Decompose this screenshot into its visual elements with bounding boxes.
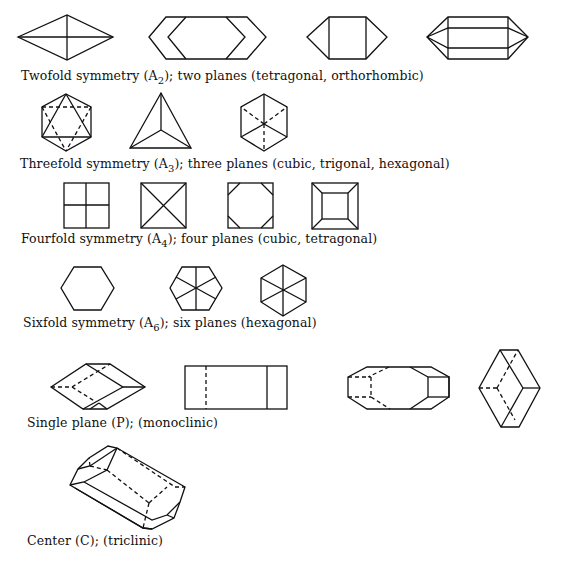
- square-diagonals-icon: [141, 183, 186, 228]
- monoclinic-rectangle-icon: [185, 366, 287, 409]
- symmetry-elements-figure: Twofold symmetry (A2); two planes (tetra…: [0, 0, 565, 562]
- caption-text: ); four planes (cubic, tetragonal): [168, 231, 378, 246]
- caption-center: Center (C); (triclinic): [27, 533, 163, 548]
- hexagon-diagonals-icon: [261, 265, 306, 316]
- caption-text: ); three planes (cubic, trigonal, hexago…: [174, 156, 449, 171]
- cube-corner-view-icon: [241, 94, 287, 151]
- caption-text: Threefold symmetry (A: [20, 156, 168, 171]
- monoclinic-rhomb-vertical-icon: [479, 350, 540, 427]
- caption-fourfold: Fourfold symmetry (A4); four planes (cub…: [21, 231, 377, 249]
- doubly-terminated-prism-icon: [427, 17, 528, 59]
- triclinic-prism-icon: [70, 446, 185, 529]
- caption-text: Twofold symmetry (A: [21, 68, 158, 83]
- caption-twofold: Twofold symmetry (A2); two planes (tetra…: [21, 68, 424, 86]
- square-frustum-icon: [312, 183, 358, 229]
- caption-single-plane: Single plane (P); (monoclinic): [27, 415, 218, 430]
- truncated-square-icon: [228, 183, 273, 228]
- prism-with-pyramid-ends-icon: [307, 17, 387, 59]
- octahedron-icon: [42, 94, 91, 151]
- caption-threefold: Threefold symmetry (A3); three planes (c…: [20, 156, 450, 174]
- caption-text: ); two planes (tetragonal, orthorhombic): [164, 68, 424, 83]
- monoclinic-octagonal-prism-icon: [348, 367, 449, 409]
- hexagon-edge-midlines-icon: [170, 267, 222, 310]
- square-quartered-icon: [64, 183, 109, 228]
- caption-text: Single plane (P); (monoclinic): [27, 415, 218, 430]
- hexagon-plain-icon: [61, 267, 114, 310]
- caption-text: Center (C); (triclinic): [27, 533, 163, 548]
- rhombic-dipyramid-icon: [18, 15, 113, 60]
- caption-text: ); six planes (hexagonal): [160, 315, 317, 330]
- elongated-hexagonal-prism-icon: [149, 17, 266, 59]
- tetrahedron-icon: [130, 93, 191, 148]
- caption-text: Sixfold symmetry (A: [23, 315, 153, 330]
- caption-text: Fourfold symmetry (A: [21, 231, 161, 246]
- caption-sixfold: Sixfold symmetry (A6); six planes (hexag…: [23, 315, 317, 333]
- monoclinic-rhomb-icon: [51, 364, 145, 409]
